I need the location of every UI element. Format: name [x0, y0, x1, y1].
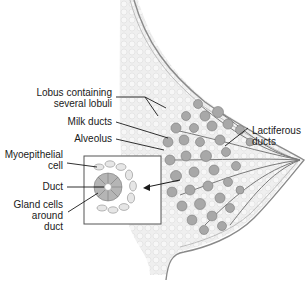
label-duct: Duct: [0, 181, 63, 192]
label-lobus: Lobus containing several lobuli: [30, 87, 112, 109]
label-alveolus: Alveolus: [30, 133, 112, 144]
label-milk-ducts: Milk ducts: [30, 116, 112, 127]
label-lactiferous-ducts: Lactiferous ducts: [252, 125, 301, 147]
label-myoepithelial-cell: Myoepithelial cell: [0, 149, 63, 171]
label-gland-cells: Gland cells around duct: [0, 199, 63, 232]
